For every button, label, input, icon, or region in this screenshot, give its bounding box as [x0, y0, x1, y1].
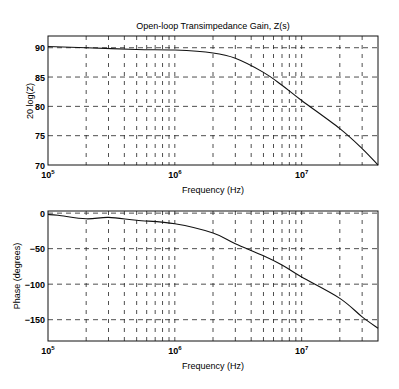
y-tick-label: 80 — [35, 102, 45, 112]
y-tick-label: 85 — [35, 73, 45, 83]
x-tick-label: 107 — [295, 169, 309, 180]
gain-y-ticks: 9085807570 — [35, 43, 45, 170]
y-tick-label: −150 — [25, 315, 45, 325]
phase-y-label: Phase (degrees) — [12, 243, 22, 310]
gain-plot-title: Open-loop Transimpedance Gain, Z(s) — [136, 21, 290, 31]
bode-plot-figure: Open-loop Transimpedance Gain, Z(s) 9085… — [0, 0, 399, 389]
phase-plot: 0−50−100−150 105106107 Frequency (Hz) Ph… — [12, 209, 378, 371]
x-tick-label: 106 — [168, 345, 182, 356]
phase-x-label: Frequency (Hz) — [182, 361, 244, 371]
gain-grid — [48, 36, 378, 165]
phase-y-ticks: 0−50−100−150 — [25, 209, 45, 326]
y-tick-label: 75 — [35, 131, 45, 141]
phase-x-ticks: 105106107 — [41, 345, 309, 356]
x-tick-label: 105 — [41, 345, 55, 356]
gain-plot: Open-loop Transimpedance Gain, Z(s) 9085… — [25, 21, 378, 195]
gain-x-ticks: 105106107 — [41, 169, 309, 180]
x-tick-label: 107 — [295, 345, 309, 356]
y-tick-label: −50 — [30, 244, 45, 254]
x-tick-label: 105 — [41, 169, 55, 180]
x-tick-label: 106 — [168, 169, 182, 180]
y-tick-label: −100 — [25, 280, 45, 290]
y-tick-label: 0 — [40, 209, 45, 219]
gain-x-label: Frequency (Hz) — [182, 185, 244, 195]
gain-y-label: 20 log(Z) — [25, 83, 35, 119]
phase-grid — [48, 211, 378, 341]
y-tick-label: 70 — [35, 161, 45, 171]
y-tick-label: 90 — [35, 43, 45, 53]
